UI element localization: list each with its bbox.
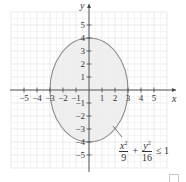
svg-text:1: 1	[81, 72, 86, 82]
svg-text:1: 1	[100, 93, 105, 103]
x-axis-label: x	[171, 93, 177, 104]
svg-text:−4: −4	[32, 93, 42, 103]
y-axis-label: y	[79, 0, 85, 11]
svg-text:−2: −2	[75, 111, 85, 121]
svg-text:−5: −5	[75, 150, 85, 160]
svg-text:−4: −4	[75, 137, 85, 147]
fraction-x: x2 9	[119, 138, 128, 163]
svg-text:3: 3	[81, 46, 86, 56]
svg-text:4: 4	[139, 93, 144, 103]
svg-text:5: 5	[81, 20, 86, 30]
svg-text:−3: −3	[45, 93, 55, 103]
expand-checkbox-icon[interactable]	[169, 174, 179, 182]
fraction-y: y2 16	[142, 138, 152, 163]
svg-text:2: 2	[113, 93, 118, 103]
svg-text:−1: −1	[75, 98, 85, 108]
plus-sign: +	[132, 145, 138, 156]
inequality-label: x2 9 + y2 16 ≤ 1	[118, 138, 172, 163]
svg-text:2: 2	[81, 59, 86, 69]
svg-text:−5: −5	[19, 93, 29, 103]
svg-text:−3: −3	[75, 124, 85, 134]
svg-text:−2: −2	[58, 93, 68, 103]
svg-text:4: 4	[81, 33, 86, 43]
relation: ≤ 1	[156, 145, 169, 156]
svg-text:3: 3	[126, 93, 131, 103]
svg-text:5: 5	[152, 93, 157, 103]
